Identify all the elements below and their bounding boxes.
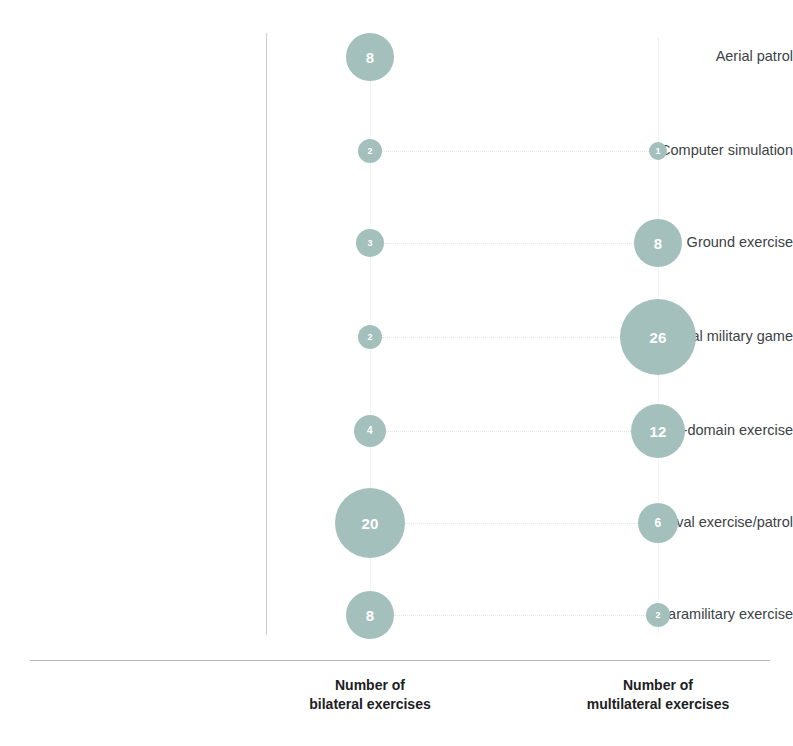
bubble-bilateral: 8 [346,591,394,639]
bubble-value-label: 1 [655,147,660,156]
bubble-value-label: 6 [655,517,662,529]
bubble-multilateral: 26 [620,299,696,375]
bubble-value-label: 12 [649,424,666,439]
column-header-bilateral-line2: bilateral exercises [250,695,490,714]
bubble-multilateral: 12 [631,404,685,458]
column-header-multilateral-line1: Number of [623,677,693,693]
row-connector-line [405,523,638,524]
bubble-value-label: 8 [654,236,663,251]
bubble-multilateral: 6 [638,503,678,543]
bubble-bilateral: 2 [358,139,382,163]
row-connector-line [394,615,646,616]
bubble-bilateral: 8 [346,33,394,81]
row-connector-line [384,243,634,244]
row-connector-line [382,151,649,152]
bubble-multilateral: 1 [649,142,667,160]
column-header-bilateral-line1: Number of [335,677,405,693]
bubble-value-label: 8 [366,608,375,623]
bubble-chart-figure: Aerial patrol8Computer simulation21Groun… [0,0,793,746]
bubble-multilateral: 8 [634,219,682,267]
bubble-value-label: 2 [367,333,372,342]
category-label: Aerial patrol [541,49,793,64]
bubble-value-label: 4 [367,426,373,436]
footer-divider-rule [30,660,770,661]
plot-area: Aerial patrol8Computer simulation21Groun… [0,0,793,660]
bubble-multilateral: 2 [646,603,670,627]
bubble-value-label: 3 [367,239,372,248]
bubble-value-label: 8 [366,50,375,65]
column-header-multilateral: Number of multilateral exercises [538,676,778,714]
bubble-bilateral: 2 [358,325,382,349]
bubble-value-label: 26 [649,330,666,345]
bubble-value-label: 20 [361,516,378,531]
bubble-bilateral: 3 [356,229,384,257]
row-connector-line [382,337,620,338]
bubble-bilateral: 4 [354,415,386,447]
column-header-multilateral-line2: multilateral exercises [538,695,778,714]
category-axis-divider [266,33,267,635]
bubble-value-label: 2 [655,611,660,620]
bubble-value-label: 2 [367,147,372,156]
bubble-bilateral: 20 [335,488,405,558]
column-header-bilateral: Number of bilateral exercises [250,676,490,714]
row-connector-line [386,431,631,432]
